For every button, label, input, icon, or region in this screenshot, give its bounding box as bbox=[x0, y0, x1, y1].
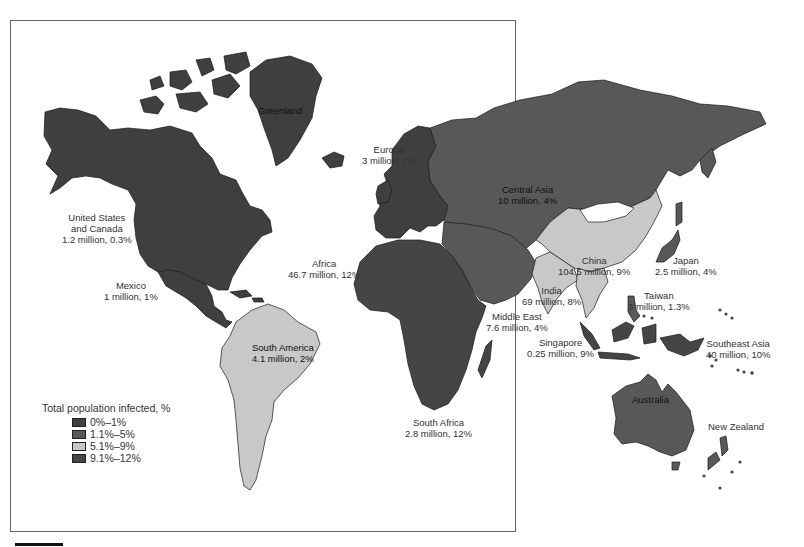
label-us-canada-name2: and Canada bbox=[62, 223, 132, 234]
label-australia: Australia bbox=[632, 394, 669, 405]
region-tasmania bbox=[672, 462, 680, 470]
label-china-name: China bbox=[558, 255, 630, 266]
legend-label: 0%–1% bbox=[90, 416, 126, 428]
label-japan: Japan 2.5 million, 4% bbox=[655, 255, 717, 277]
label-europe: Europe 3 million, 1% bbox=[362, 144, 416, 166]
label-central-asia-value: 10 million, 4% bbox=[498, 195, 557, 206]
label-us-canada-name1: United States bbox=[62, 212, 132, 223]
legend-label: 1.1%–5% bbox=[90, 428, 135, 440]
label-south-africa-value: 2.8 million, 12% bbox=[405, 428, 472, 439]
label-australia-name: Australia bbox=[632, 394, 669, 405]
legend-item-1-5: 1.1%–5% bbox=[72, 428, 170, 440]
map-legend: Total population infected, % 0%–1% 1.1%–… bbox=[42, 402, 170, 464]
label-south-america: South America 4.1 million, 2% bbox=[252, 342, 314, 364]
label-south-america-name: South America bbox=[252, 342, 314, 353]
label-us-canada-value: 1.2 million, 0.3% bbox=[62, 234, 132, 245]
label-japan-value: 2.5 million, 4% bbox=[655, 266, 717, 277]
label-africa: Africa 46.7 million, 12% bbox=[288, 258, 360, 280]
label-europe-name: Europe bbox=[362, 144, 416, 155]
label-mexico-value: 1 million, 1% bbox=[104, 291, 158, 302]
label-mexico-name: Mexico bbox=[104, 280, 158, 291]
legend-swatch bbox=[72, 442, 86, 451]
label-new-zealand: New Zealand bbox=[708, 421, 764, 432]
label-south-africa: South Africa 2.8 million, 12% bbox=[405, 417, 472, 439]
legend-label: 9.1%–12% bbox=[90, 452, 141, 464]
label-middle-east-value: 7.6 million, 4% bbox=[486, 322, 548, 333]
label-japan-name: Japan bbox=[655, 255, 717, 266]
legend-swatch bbox=[72, 418, 86, 427]
region-south-america[interactable] bbox=[220, 304, 320, 490]
label-taiwan-name: Taiwan bbox=[628, 290, 690, 301]
label-india-value: 69 million, 8% bbox=[522, 296, 581, 307]
label-central-asia: Central Asia 10 million, 4% bbox=[498, 184, 557, 206]
region-north-america[interactable] bbox=[44, 108, 272, 290]
legend-swatch bbox=[72, 454, 86, 463]
legend-item-5-9: 5.1%–9% bbox=[72, 440, 170, 452]
label-central-asia-name: Central Asia bbox=[498, 184, 557, 195]
region-caribbean bbox=[230, 290, 264, 302]
region-japan[interactable] bbox=[656, 202, 682, 262]
label-india-name: India bbox=[522, 285, 581, 296]
region-australia[interactable] bbox=[612, 374, 694, 456]
label-southeast-asia-name: Southeast Asia bbox=[706, 338, 770, 349]
label-singapore: Singapore 0.25 million, 9% bbox=[527, 337, 594, 359]
label-china: China 104.5 million, 9% bbox=[558, 255, 630, 277]
label-us-canada: United States and Canada 1.2 million, 0.… bbox=[62, 212, 132, 245]
region-southeast-asia[interactable] bbox=[580, 322, 704, 360]
label-taiwan-value: 3 million, 1.3% bbox=[628, 301, 690, 312]
footnote-rule bbox=[15, 543, 63, 546]
label-china-value: 104.5 million, 9% bbox=[558, 266, 630, 277]
label-greenland: Greenland bbox=[258, 105, 302, 116]
label-singapore-value: 0.25 million, 9% bbox=[527, 348, 594, 359]
region-new-zealand[interactable] bbox=[708, 436, 728, 470]
legend-swatch bbox=[72, 430, 86, 439]
label-middle-east-name: Middle East bbox=[486, 311, 548, 322]
label-south-america-value: 4.1 million, 2% bbox=[252, 353, 314, 364]
label-india: India 69 million, 8% bbox=[522, 285, 581, 307]
legend-title: Total population infected, % bbox=[42, 402, 170, 414]
label-singapore-name: Singapore bbox=[527, 337, 594, 348]
legend-label: 5.1%–9% bbox=[90, 440, 135, 452]
label-mexico: Mexico 1 million, 1% bbox=[104, 280, 158, 302]
label-southeast-asia-value: 40 million, 10% bbox=[706, 349, 770, 360]
legend-item-0-1: 0%–1% bbox=[72, 416, 170, 428]
label-south-africa-name: South Africa bbox=[405, 417, 472, 428]
region-iceland bbox=[322, 152, 344, 168]
label-africa-name: Africa bbox=[288, 258, 360, 269]
label-middle-east: Middle East 7.6 million, 4% bbox=[486, 311, 548, 333]
region-madagascar bbox=[478, 340, 492, 378]
label-europe-value: 3 million, 1% bbox=[362, 155, 416, 166]
region-arctic-islands bbox=[140, 52, 250, 114]
label-africa-value: 46.7 million, 12% bbox=[288, 269, 360, 280]
legend-item-9-12: 9.1%–12% bbox=[72, 452, 170, 464]
label-taiwan: Taiwan 3 million, 1.3% bbox=[628, 290, 690, 312]
label-new-zealand-name: New Zealand bbox=[708, 421, 764, 432]
label-southeast-asia: Southeast Asia 40 million, 10% bbox=[706, 338, 770, 360]
label-greenland-name: Greenland bbox=[258, 105, 302, 116]
